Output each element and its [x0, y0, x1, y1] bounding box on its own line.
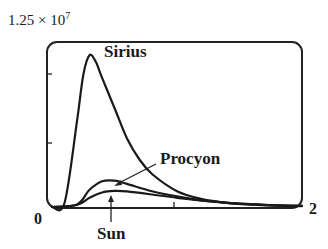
- sirius-curve: [52, 55, 302, 211]
- sirius-label: Sirius: [104, 42, 147, 62]
- x-axis-min-label: 0: [34, 210, 42, 228]
- procyon-pointer-arrow: [114, 164, 156, 186]
- x-axis-max-label: 2: [309, 200, 317, 218]
- chart-plot: [0, 0, 328, 249]
- procyon-label: Procyon: [160, 149, 220, 169]
- procyon-curve: [52, 180, 302, 207]
- sun-label: Sun: [97, 224, 125, 244]
- sun-curve: [52, 191, 302, 207]
